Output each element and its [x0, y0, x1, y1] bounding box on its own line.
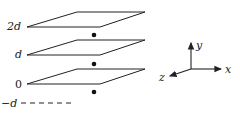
label-0: 0 — [15, 78, 22, 91]
charge-dot — [92, 90, 97, 95]
plane-d — [27, 40, 145, 55]
label-d: d — [15, 48, 22, 61]
label-2d: 2d — [6, 20, 21, 33]
charge-dot — [92, 33, 97, 38]
plane-0 — [27, 69, 145, 84]
axis-label-y: y — [195, 39, 203, 52]
label-minus-d: −d — [1, 97, 17, 110]
axis-label-x: x — [225, 63, 232, 76]
charge-dot — [92, 62, 97, 67]
plane-diagram: 2d d 0 −d y x z — [0, 0, 240, 113]
plane-2d — [27, 12, 145, 27]
axis-label-z: z — [158, 71, 165, 84]
